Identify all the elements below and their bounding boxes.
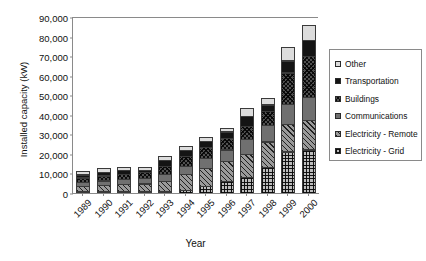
bar-segment <box>281 47 295 62</box>
legend-item-label: Transportation <box>345 76 399 86</box>
y-axis-tick-mark <box>70 115 73 116</box>
chart-legend: OtherTransportationBuildingsCommunicatio… <box>329 49 422 161</box>
bar-stack <box>97 168 111 193</box>
y-axis-tick-label: 60,000 <box>39 71 73 82</box>
legend-swatch-icon <box>335 131 341 137</box>
y-axis-tick-mark <box>70 37 73 38</box>
legend-swatch-icon <box>335 113 341 119</box>
x-axis-tick-mark <box>246 193 247 196</box>
legend-item-label: Electricity - Grid <box>345 146 404 156</box>
bar-stack <box>138 167 152 193</box>
bar-segment <box>302 97 316 120</box>
x-axis-tick-mark <box>185 193 186 196</box>
legend-item: Electricity - Remote <box>335 125 421 143</box>
bar-segment <box>302 150 316 194</box>
bar-segment <box>240 154 254 178</box>
bar-stack <box>302 25 316 193</box>
bar-segment <box>240 177 254 194</box>
y-axis-tick-mark <box>70 174 73 175</box>
bar-stack <box>199 137 213 193</box>
bar-segment <box>302 56 316 98</box>
bar-segment <box>261 142 275 168</box>
bar-stack <box>179 146 193 193</box>
bar-stack <box>240 108 254 193</box>
bar-segment <box>281 124 295 152</box>
legend-item: Transportation <box>335 73 421 91</box>
bar-segment <box>220 150 234 163</box>
x-axis-tick-mark <box>82 193 83 196</box>
legend-item-label: Communications <box>345 111 407 121</box>
x-axis-line <box>72 193 319 194</box>
legend-swatch-icon <box>335 78 341 84</box>
x-axis-tick-mark <box>205 193 206 196</box>
bar-segment <box>199 168 213 187</box>
y-axis-tick-label: 30,000 <box>39 130 73 141</box>
bar-segment <box>240 139 254 154</box>
bar-segment <box>199 147 213 158</box>
bar-segment <box>220 138 234 150</box>
x-axis-tick-mark <box>103 193 104 196</box>
x-axis-tick-mark <box>123 193 124 196</box>
bar-segment <box>261 111 275 126</box>
bar-segment <box>220 161 234 182</box>
legend-item: Buildings <box>335 90 421 108</box>
legend-item-label: Other <box>345 59 366 69</box>
bar-segment <box>281 104 295 125</box>
chart-figure: Installed capacity (kW) 010,00020,00030,… <box>0 0 426 261</box>
x-axis-tick-mark <box>226 193 227 196</box>
bar-segment <box>179 174 193 191</box>
y-axis-tick-mark <box>70 135 73 136</box>
bar-stack <box>261 98 275 193</box>
bar-segment <box>240 126 254 140</box>
bar-segment <box>220 181 234 193</box>
legend-swatch-icon <box>335 96 341 102</box>
bar-segment <box>302 120 316 150</box>
y-axis-tick-mark <box>70 76 73 77</box>
bar-stack <box>220 128 234 193</box>
bar-segment <box>302 40 316 57</box>
y-axis-tick-label: 90,000 <box>39 13 73 24</box>
bar-segment <box>281 61 295 74</box>
y-axis-title: Installed capacity (kW) <box>18 25 29 195</box>
legend-item: Other <box>335 55 421 73</box>
legend-swatch-icon <box>335 148 341 154</box>
y-axis-tick-mark <box>70 57 73 58</box>
x-axis-tick-mark <box>164 193 165 196</box>
legend-swatch-icon <box>335 61 341 67</box>
bar-stack <box>158 156 172 193</box>
x-axis-tick-mark <box>267 193 268 196</box>
bar-stack <box>117 167 131 193</box>
bar-segment <box>281 73 295 105</box>
y-axis-tick-label: 80,000 <box>39 32 73 43</box>
x-axis-tick-mark <box>144 193 145 196</box>
bar-stack <box>281 47 295 193</box>
y-axis-tick-mark <box>70 96 73 97</box>
bar-segment <box>281 152 295 194</box>
y-axis-tick-label: 10,000 <box>39 169 73 180</box>
bar-segment <box>302 25 316 41</box>
legend-item-label: Electricity - Remote <box>345 129 418 139</box>
y-axis-tick-label: 20,000 <box>39 149 73 160</box>
legend-item-label: Buildings <box>345 94 379 104</box>
y-axis-tick-mark <box>70 154 73 155</box>
bar-segment <box>261 167 275 193</box>
legend-item: Communications <box>335 108 421 126</box>
y-axis-tick-label: 70,000 <box>39 52 73 63</box>
x-axis-title: Year <box>72 238 319 249</box>
legend-item: Electricity - Grid <box>335 143 421 161</box>
y-axis-tick-label: 40,000 <box>39 110 73 121</box>
y-axis-tick-label: 50,000 <box>39 91 73 102</box>
plot-area: 010,00020,00030,00040,00050,00060,00070,… <box>72 17 318 193</box>
bar-segment <box>261 125 275 142</box>
x-axis-tick-mark <box>308 193 309 196</box>
x-axis-tick-mark <box>287 193 288 196</box>
y-axis-tick-mark <box>70 18 73 19</box>
bar-stack <box>76 171 90 193</box>
